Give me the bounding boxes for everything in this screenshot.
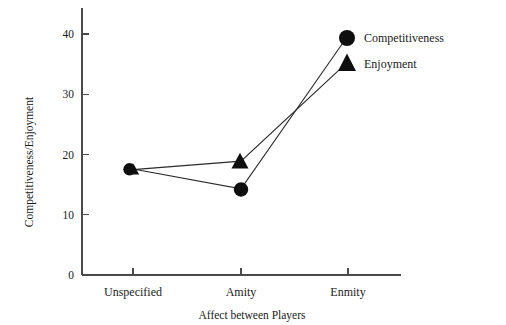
y-tick-label-30: 30 [63,88,75,100]
x-axis-title: Affect between Players [198,309,306,322]
data-point-enjoyment-enmity [338,54,356,72]
line-chart-figure: 0 10 20 30 40 Unspecified Amity Enmity A… [0,0,506,325]
legend-label-enjoyment: Enjoyment [364,57,417,71]
chart-canvas: 0 10 20 30 40 Unspecified Amity Enmity A… [0,0,506,325]
y-axis-ticks [82,34,89,275]
x-axis-ticks [133,268,348,275]
data-point-competitiveness-amity [234,182,248,196]
y-tick-label-20: 20 [63,149,75,161]
y-tick-label-0: 0 [68,269,74,281]
y-tick-label-10: 10 [63,209,75,221]
y-tick-label-40: 40 [63,28,75,40]
x-tick-label-amity: Amity [226,285,257,299]
x-tick-label-enmity: Enmity [330,285,365,299]
data-point-competitiveness-enmity [339,30,355,46]
data-point-enjoyment-amity [232,153,249,169]
x-tick-label-unspecified: Unspecified [104,285,162,299]
legend-label-competitiveness: Competitiveness [364,31,444,45]
y-axis-title: Competitiveness/Enjoyment [23,96,36,227]
